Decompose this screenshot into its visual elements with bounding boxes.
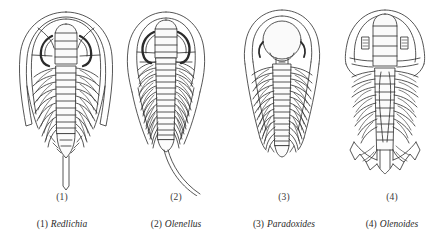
figure-number-row: (1) (2) (3) (4) — [0, 192, 444, 202]
figure-number-2: (2) — [124, 192, 228, 202]
figure-number-3: (3) — [228, 192, 340, 202]
figure-olenoides — [330, 0, 440, 196]
trilobite-plate: (1) (2) (3) (4) (1)Redlichia (2)Olenellu… — [0, 0, 444, 251]
figure-number-4: (4) — [340, 192, 444, 202]
figure-redlichia — [8, 0, 124, 196]
caption-paradoxides: (3)Paradoxides — [228, 219, 340, 229]
caption-index-4: (4) — [366, 219, 377, 229]
caption-index-2: (2) — [151, 219, 162, 229]
caption-olenellus: (2)Olenellus — [124, 219, 228, 229]
caption-redlichia: (1)Redlichia — [0, 219, 124, 229]
caption-index-3: (3) — [253, 219, 264, 229]
figure-number-1: (1) — [0, 192, 124, 202]
caption-genus-1: Redlichia — [48, 219, 87, 229]
caption-olenoides: (4)Olenoides — [340, 219, 444, 229]
caption-genus-2: Olenellus — [162, 219, 201, 229]
caption-genus-3: Paradoxides — [264, 219, 315, 229]
caption-row: (1)Redlichia (2)Olenellus (3)Paradoxides… — [0, 219, 444, 229]
caption-index-1: (1) — [37, 219, 48, 229]
figure-olenellus — [112, 0, 222, 196]
caption-genus-4: Olenoides — [377, 219, 419, 229]
figure-paradoxides — [226, 0, 340, 196]
